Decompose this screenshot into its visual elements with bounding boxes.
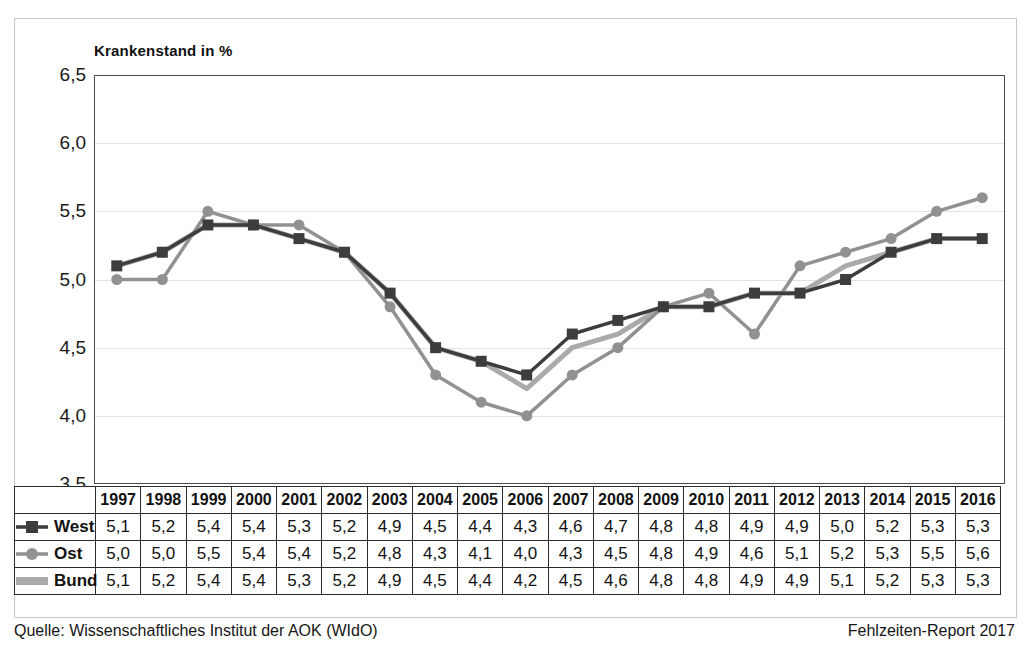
table-year-header: 2007 [548, 487, 593, 514]
series-plot [94, 75, 1005, 484]
table-cell: 5,3 [955, 568, 1000, 595]
series-line-ost [117, 198, 982, 416]
table-cell: 4,9 [774, 514, 819, 541]
table-cell: 4,4 [458, 568, 503, 595]
table-cell: 5,2 [322, 541, 367, 568]
y-tick-label: 4,5 [34, 337, 86, 359]
data-point-ost [385, 301, 396, 312]
data-point-west [521, 369, 532, 380]
data-point-west [430, 342, 441, 353]
table-cell: 4,9 [367, 514, 412, 541]
table-body: West5,15,25,45,45,35,24,94,54,44,34,64,7… [15, 514, 1001, 595]
y-tick-label: 5,5 [34, 200, 86, 222]
table-cell: 4,9 [774, 568, 819, 595]
table-year-header: 2000 [231, 487, 276, 514]
legend-label: Bund [54, 571, 99, 591]
table-header-row: 1997199819992000200120022003200420052006… [15, 487, 1001, 514]
table-cell: 5,2 [322, 568, 367, 595]
table-cell: 5,4 [231, 541, 276, 568]
table-row: Bund5,15,25,45,45,35,24,94,54,44,24,54,6… [15, 568, 1001, 595]
table-cell: 4,3 [548, 541, 593, 568]
table-year-header: 1998 [141, 487, 186, 514]
table-year-header: 2016 [955, 487, 1000, 514]
table-year-header: 2010 [684, 487, 729, 514]
data-point-ost [977, 192, 988, 203]
data-point-west [658, 301, 669, 312]
table-year-header: 2014 [865, 487, 910, 514]
legend-label: Ost [54, 544, 95, 564]
figure-footer: Quelle: Wissenschaftliches Institut der … [14, 622, 1017, 648]
table-cell: 4,4 [458, 514, 503, 541]
table-year-header: 2008 [593, 487, 638, 514]
table-cell: 5,2 [141, 514, 186, 541]
data-table: 1997199819992000200120022003200420052006… [14, 486, 1001, 595]
data-point-west [749, 288, 760, 299]
data-point-west [385, 288, 396, 299]
table-cell: 4,3 [412, 541, 457, 568]
table-cell: 5,2 [865, 568, 910, 595]
table-cell: 4,9 [729, 568, 774, 595]
table-year-header: 2009 [639, 487, 684, 514]
table-cell: 4,6 [729, 541, 774, 568]
table-cell: 4,9 [729, 514, 774, 541]
data-point-west [931, 233, 942, 244]
figure-root: Krankenstand in % 6,56,05,55,04,54,03,5 … [0, 0, 1036, 656]
table-cell: 5,2 [865, 514, 910, 541]
y-tick-label: 6,5 [34, 64, 86, 86]
data-point-west [202, 219, 213, 230]
table-cell: 4,5 [593, 541, 638, 568]
table-cell: 5,2 [820, 541, 865, 568]
data-point-ost [612, 342, 623, 353]
table-cell: 5,0 [820, 514, 865, 541]
series-line-west [117, 225, 982, 375]
table-cell: 4,8 [684, 568, 729, 595]
table-year-header: 2004 [412, 487, 457, 514]
table-cell: 5,4 [277, 541, 322, 568]
table-row: Ost5,05,05,55,45,45,24,84,34,14,04,34,54… [15, 541, 1001, 568]
table-cell: 5,3 [277, 514, 322, 541]
table-year-header: 2015 [910, 487, 955, 514]
data-point-ost [567, 369, 578, 380]
table-cell: 5,4 [186, 568, 231, 595]
table-corner-cell [15, 487, 96, 514]
data-point-ost [703, 288, 714, 299]
table-cell: 4,2 [503, 568, 548, 595]
table-row: West5,15,25,45,45,35,24,94,54,44,34,64,7… [15, 514, 1001, 541]
table-cell: 4,8 [367, 541, 412, 568]
table-cell: 4,5 [412, 568, 457, 595]
data-point-west [703, 301, 714, 312]
legend-entry: Bund [15, 571, 95, 591]
legend-marker-ost-icon [15, 547, 49, 561]
data-point-ost [293, 219, 304, 230]
data-point-ost [840, 247, 851, 258]
data-point-west [476, 356, 487, 367]
table-cell: 5,2 [322, 514, 367, 541]
table-year-header: 1997 [96, 487, 141, 514]
table-cell: 5,0 [96, 541, 141, 568]
data-point-west [248, 219, 259, 230]
table-year-header: 2006 [503, 487, 548, 514]
table-cell: 4,8 [639, 514, 684, 541]
table-cell: 5,3 [910, 568, 955, 595]
data-point-ost [157, 274, 168, 285]
legend-marker-bund-icon [15, 574, 49, 588]
legend-marker-west-icon [15, 520, 49, 534]
data-point-ost [931, 206, 942, 217]
table-year-header: 2013 [820, 487, 865, 514]
legend-label: West [54, 517, 96, 537]
table-cell: 4,8 [639, 541, 684, 568]
data-point-west [567, 329, 578, 340]
data-point-west [977, 233, 988, 244]
table-cell: 5,1 [774, 541, 819, 568]
table-year-header: 2012 [774, 487, 819, 514]
y-tick-label: 6,0 [34, 132, 86, 154]
data-point-west [293, 233, 304, 244]
data-point-west [612, 315, 623, 326]
table-cell: 4,5 [412, 514, 457, 541]
data-point-ost [430, 369, 441, 380]
table-cell: 4,8 [684, 514, 729, 541]
table-cell: 4,3 [503, 514, 548, 541]
table-cell: 5,1 [820, 568, 865, 595]
table-cell: 5,6 [955, 541, 1000, 568]
table-cell: 4,1 [458, 541, 503, 568]
